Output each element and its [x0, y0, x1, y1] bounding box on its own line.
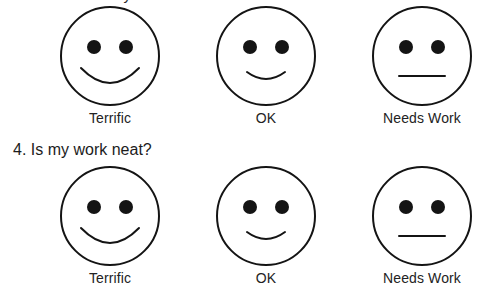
rating-option-terrific[interactable]: Terrific: [51, 2, 169, 127]
smiley-face-flat-mouth-icon[interactable]: [370, 2, 474, 108]
smiley-face-neutral-smile-icon[interactable]: [214, 2, 318, 108]
rating-option-label: Terrific: [51, 270, 169, 287]
rating-option-label: OK: [207, 110, 325, 127]
rating-option-needs-work[interactable]: Needs Work: [363, 2, 481, 127]
rating-option-label: Needs Work: [363, 270, 481, 287]
worksheet-page: 3. Did I check my work? Terrific OK: [0, 0, 490, 305]
rating-option-terrific[interactable]: Terrific: [51, 162, 169, 287]
rating-option-ok[interactable]: OK: [207, 162, 325, 287]
smiley-face-neutral-smile-icon[interactable]: [214, 162, 318, 268]
rating-option-ok[interactable]: OK: [207, 2, 325, 127]
rating-option-label: OK: [207, 270, 325, 287]
smiley-face-flat-mouth-icon[interactable]: [370, 162, 474, 268]
smiley-face-happy-icon[interactable]: [58, 2, 162, 108]
rating-option-label: Terrific: [51, 110, 169, 127]
rating-row: Terrific OK Needs Work: [0, 2, 490, 134]
question-text: 4. Is my work neat?: [13, 140, 152, 160]
rating-option-label: Needs Work: [363, 110, 481, 127]
rating-row: Terrific OK Needs Work: [0, 162, 490, 294]
rating-option-needs-work[interactable]: Needs Work: [363, 162, 481, 287]
smiley-face-happy-icon[interactable]: [58, 162, 162, 268]
